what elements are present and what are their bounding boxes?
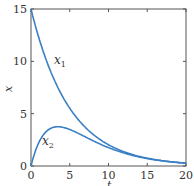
svg-text:20: 20 — [179, 169, 193, 182]
label-x1: x1 — [54, 53, 66, 69]
svg-text:15: 15 — [140, 169, 154, 182]
svg-text:10: 10 — [13, 55, 27, 68]
label-x2: x2 — [42, 134, 54, 150]
curve-x2 — [31, 127, 186, 166]
plot-frame — [31, 9, 186, 166]
y-axis-label: x — [2, 85, 15, 92]
svg-text:0: 0 — [28, 169, 35, 182]
ticks: 05101520051015 — [13, 3, 193, 182]
svg-text:0: 0 — [20, 160, 27, 173]
svg-text:5: 5 — [20, 108, 27, 121]
x-axis-label: t — [107, 179, 112, 186]
curve-x1 — [31, 9, 186, 163]
chart: 05101520051015 x1 x2 x t — [0, 0, 194, 186]
svg-text:5: 5 — [66, 169, 73, 182]
svg-text:15: 15 — [13, 3, 27, 16]
